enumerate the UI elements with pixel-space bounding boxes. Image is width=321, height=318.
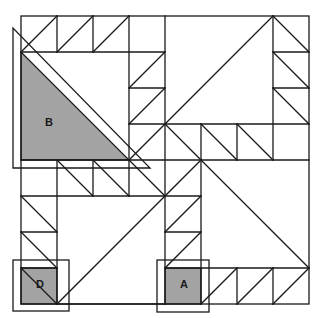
label-b: B (45, 117, 53, 128)
quilt-diagram (0, 0, 321, 318)
label-a: A (180, 279, 188, 290)
grid-lines (21, 16, 309, 304)
label-d: D (36, 279, 44, 290)
piece-b-triangle (21, 52, 129, 160)
